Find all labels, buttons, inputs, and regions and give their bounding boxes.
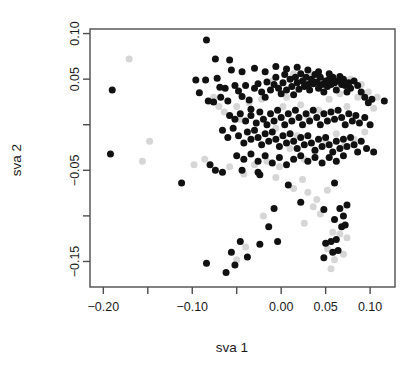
data-point — [279, 79, 286, 86]
data-point — [126, 56, 133, 63]
data-point — [283, 139, 290, 146]
data-point — [340, 136, 347, 143]
data-point — [313, 196, 320, 203]
data-point — [207, 161, 214, 168]
data-point — [251, 127, 258, 134]
data-point — [343, 201, 350, 208]
data-point — [310, 107, 317, 114]
data-point — [274, 107, 281, 114]
data-point — [340, 152, 347, 159]
data-point — [283, 161, 290, 168]
data-point — [226, 163, 233, 170]
data-point — [304, 189, 311, 196]
data-point — [255, 134, 262, 141]
data-point — [356, 119, 363, 126]
data-point — [303, 110, 310, 117]
data-point — [304, 67, 311, 74]
data-point — [203, 260, 210, 267]
data-point — [331, 180, 338, 187]
data-point — [294, 64, 301, 71]
data-point — [239, 167, 246, 174]
data-point — [327, 265, 334, 272]
data-point — [326, 154, 333, 161]
data-point — [363, 145, 370, 152]
data-point — [367, 121, 374, 128]
data-point — [320, 206, 327, 213]
data-point — [361, 129, 368, 136]
data-point — [233, 152, 240, 159]
data-point — [347, 134, 354, 141]
data-point — [247, 136, 254, 143]
data-point — [239, 68, 246, 75]
data-point — [265, 223, 272, 230]
data-point — [262, 94, 269, 101]
data-point — [260, 212, 267, 219]
data-point — [370, 105, 377, 112]
data-point — [320, 254, 327, 261]
data-point — [326, 141, 333, 148]
data-point — [235, 132, 242, 139]
data-point — [212, 56, 219, 63]
data-point — [343, 103, 350, 110]
data-point — [311, 154, 318, 161]
data-point — [295, 114, 302, 121]
y-axis-title: sva 2 — [9, 144, 24, 176]
data-point — [285, 110, 292, 117]
data-point — [247, 106, 254, 113]
data-point — [191, 161, 198, 168]
data-point — [276, 143, 283, 150]
data-point — [343, 234, 350, 241]
data-point — [279, 132, 286, 139]
data-point — [242, 118, 249, 125]
data-point — [340, 212, 347, 219]
data-point — [345, 110, 352, 117]
data-point — [203, 36, 210, 43]
data-point — [333, 87, 340, 94]
plot-canvas: −0.20−0.100.000.050.100.100.05−0.05−0.15… — [0, 0, 415, 374]
y-tick-label: −0.05 — [68, 154, 82, 186]
data-point — [272, 74, 279, 81]
data-point — [262, 152, 269, 159]
data-point — [354, 149, 361, 156]
data-point — [212, 167, 219, 174]
data-point — [319, 160, 326, 167]
data-point — [361, 114, 368, 121]
data-point — [324, 187, 331, 194]
data-point — [333, 158, 340, 165]
data-point — [304, 158, 311, 165]
data-point — [219, 127, 226, 134]
data-point — [228, 67, 235, 74]
data-point — [246, 97, 253, 104]
data-point — [358, 138, 365, 145]
data-point — [290, 91, 297, 98]
data-point — [292, 107, 299, 114]
data-point — [244, 253, 251, 260]
data-point — [327, 108, 334, 115]
data-point — [217, 94, 224, 101]
data-point — [139, 158, 146, 165]
data-point — [255, 158, 262, 165]
x-tick-label: 0.10 — [358, 300, 382, 314]
data-point — [308, 139, 315, 146]
data-point — [263, 78, 270, 85]
data-point — [196, 89, 203, 96]
data-point — [329, 229, 336, 236]
data-point — [306, 118, 313, 125]
data-point — [352, 112, 359, 119]
data-point — [381, 98, 388, 105]
x-tick-label: 0.00 — [269, 300, 293, 314]
data-point — [222, 85, 229, 92]
data-point — [272, 63, 279, 70]
data-point — [283, 66, 290, 73]
data-point — [290, 138, 297, 145]
data-point — [231, 262, 238, 269]
scatter-plot-figure: −0.20−0.100.000.050.100.100.05−0.05−0.15… — [0, 0, 415, 374]
x-tick-label: −0.20 — [88, 300, 120, 314]
data-point — [333, 236, 340, 243]
data-point — [201, 156, 208, 163]
data-point — [306, 87, 313, 94]
data-point — [317, 121, 324, 128]
data-point — [336, 205, 343, 212]
data-point — [313, 114, 320, 121]
data-point — [301, 220, 308, 227]
